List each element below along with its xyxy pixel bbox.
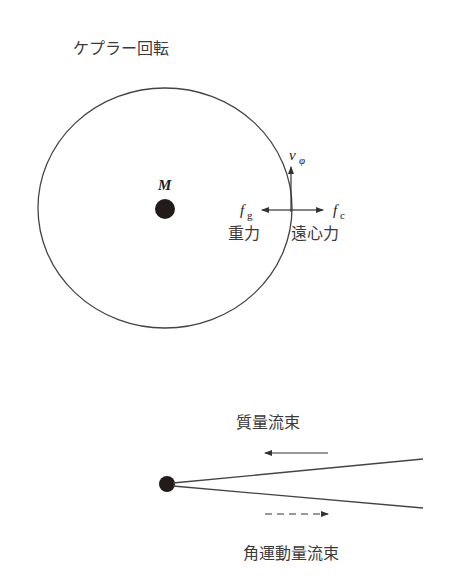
gravity-label: 重力: [228, 224, 260, 243]
centrifugal-symbol: f c: [333, 202, 345, 221]
kepler-rotation-diagram: ケプラー回転 M v φ f g 重力 f c 遠心力 質量流束 角運動量流束: [0, 0, 451, 582]
centrifugal-label: 遠心力: [291, 224, 339, 243]
svg-text:f: f: [333, 202, 339, 218]
disk-lower-edge: [173, 486, 423, 508]
svg-text:f: f: [240, 202, 246, 218]
central-mass-label: M: [157, 177, 172, 193]
angular-momentum-flux-label: 角運動量流束: [243, 544, 339, 563]
svg-text:g: g: [247, 209, 253, 221]
diagram-title: ケプラー回転: [73, 39, 169, 58]
gravity-symbol: f g: [240, 202, 253, 221]
svg-text:c: c: [340, 209, 345, 221]
svg-text:v: v: [289, 147, 296, 163]
svg-text:φ: φ: [299, 154, 305, 166]
velocity-label: v φ: [289, 147, 305, 166]
accretor-dot: [159, 476, 175, 492]
central-mass-dot: [155, 199, 175, 219]
disk-upper-edge: [173, 459, 423, 483]
mass-flux-label: 質量流束: [236, 413, 300, 432]
